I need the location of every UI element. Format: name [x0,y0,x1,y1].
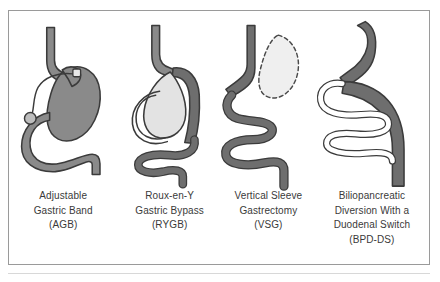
vsg-intestine-fill-shape [226,95,284,186]
caption-line: (BPD-DS) [315,233,429,248]
diagram-adjustable-gastric-band [9,11,117,189]
diagram-biliopancreatic-diversion-duodenal-switch [315,11,429,189]
caption-line: Biliopancreatic [315,189,429,204]
caption-line: (RYGB) [117,218,222,233]
rygb-small-bowel-shape [139,140,195,185]
caption-line: Diversion With a [315,204,429,219]
caption-roux-en-y-gastric-bypass: Roux-en-Y Gastric Bypass (RYGB) [117,189,222,233]
panel-biliopancreatic-diversion-duodenal-switch: Biliopancreatic Diversion With a Duodena… [315,11,429,264]
caption-line: Gastrectomy [222,204,315,219]
caption-line: Vertical Sleeve [222,189,315,204]
vsg-resected-stomach-outline-shape [259,35,299,98]
caption-line: Adjustable [9,189,117,204]
caption-line: Gastric Bypass [117,204,222,219]
caption-line: (VSG) [222,218,315,233]
figure-frame: Adjustable Gastric Band (AGB) [8,10,430,265]
agb-band-buckle-shape [73,69,81,77]
caption-vertical-sleeve-gastrectomy: Vertical Sleeve Gastrectomy (VSG) [222,189,315,233]
diagram-panels: Adjustable Gastric Band (AGB) [9,11,429,264]
panel-roux-en-y-gastric-bypass: Roux-en-Y Gastric Bypass (RYGB) [117,11,222,264]
caption-line: Duodenal Switch [315,218,429,233]
caption-line: Roux-en-Y [117,189,222,204]
caption-adjustable-gastric-band: Adjustable Gastric Band (AGB) [9,189,117,233]
caption-biliopancreatic-diversion-duodenal-switch: Biliopancreatic Diversion With a Duodena… [315,189,429,247]
caption-line: (AGB) [9,218,117,233]
figure-underline [8,273,430,274]
rygb-bypassed-stomach-shape [144,72,186,138]
panel-adjustable-gastric-band: Adjustable Gastric Band (AGB) [9,11,117,264]
diagram-vertical-sleeve-gastrectomy [222,11,315,189]
agb-access-port-shape [24,113,36,125]
bpdds-gastric-sleeve-shape [340,22,376,86]
diagram-roux-en-y-gastric-bypass [117,11,222,189]
vsg-gastric-sleeve-shape [226,25,255,97]
caption-line: Gastric Band [9,204,117,219]
panel-vertical-sleeve-gastrectomy: Vertical Sleeve Gastrectomy (VSG) [222,11,315,264]
rygb-esophagus-shape [152,25,175,77]
